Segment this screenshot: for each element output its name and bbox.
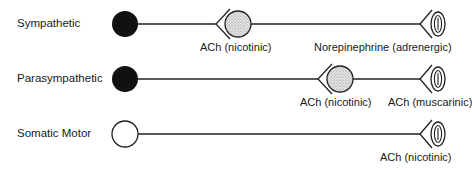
target-receptor-icon (420, 10, 445, 38)
row-somatic-motor (112, 120, 445, 148)
row-parasympathetic (112, 64, 445, 94)
row-sympathetic (112, 9, 445, 39)
row-label-parasympathetic: Parasympathetic (17, 72, 103, 84)
row-label-sympathetic: Sympathetic (17, 17, 80, 29)
soma-filled-icon (112, 66, 138, 92)
row-label-somatic-motor: Somatic Motor (17, 127, 91, 139)
target-receptor-label: Norepinephrine (adrenergic) (314, 41, 452, 53)
ganglion-nicotinic-icon (318, 64, 353, 94)
ganglion-receptor-label: ACh (nicotinic) (300, 96, 372, 108)
soma-filled-icon (112, 11, 138, 37)
target-receptor-icon (420, 65, 445, 93)
target-receptor-icon (420, 120, 445, 148)
ganglion-receptor-label: ACh (nicotinic) (200, 41, 272, 53)
soma-open-icon (112, 121, 138, 147)
target-receptor-label: ACh (nicotinic) (380, 151, 452, 163)
ganglion-nicotinic-icon (216, 9, 251, 39)
target-receptor-label: ACh (muscarinic) (388, 96, 472, 108)
